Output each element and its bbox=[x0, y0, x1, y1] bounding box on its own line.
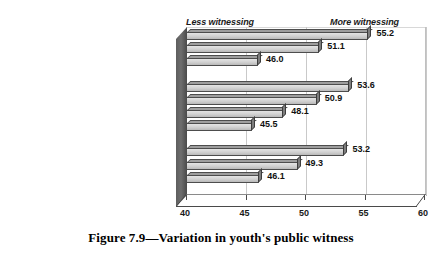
figure-container: Less witnessing More witnessing Youth gr… bbox=[0, 0, 442, 255]
figure-caption: Figure 7.9—Variation in youth's public w… bbox=[0, 230, 442, 246]
bar-front-face bbox=[186, 32, 368, 40]
bar-value-label: 53.6 bbox=[357, 80, 375, 90]
bar-value-label: 53.2 bbox=[352, 144, 370, 154]
tick-mark-40 bbox=[186, 195, 187, 200]
tick-mark-45 bbox=[246, 195, 247, 200]
bar-front-face bbox=[186, 45, 319, 53]
bar-front-face bbox=[186, 84, 349, 92]
bar bbox=[186, 94, 317, 105]
x-tick-label-50: 50 bbox=[292, 208, 316, 218]
tick-mark-55 bbox=[365, 195, 366, 200]
bar-front-face bbox=[186, 58, 258, 66]
bar bbox=[186, 172, 259, 183]
bar bbox=[186, 145, 344, 156]
right-wall-edge bbox=[425, 27, 426, 195]
bar-value-label: 46.0 bbox=[266, 54, 284, 64]
gridline-55 bbox=[366, 27, 367, 195]
bar-value-label: 46.1 bbox=[267, 171, 285, 181]
bar bbox=[186, 55, 258, 66]
bar bbox=[186, 107, 283, 118]
plot-area: 55.251.146.053.650.948.145.553.249.346.1… bbox=[176, 27, 426, 207]
floor-back-edge bbox=[186, 194, 426, 195]
bar-value-label: 50.9 bbox=[325, 93, 343, 103]
x-tick-label-40: 40 bbox=[173, 208, 197, 218]
bar-value-label: 55.2 bbox=[376, 28, 394, 38]
bar-value-label: 45.5 bbox=[260, 119, 278, 129]
bar-front-face bbox=[186, 175, 259, 183]
bar-value-label: 51.1 bbox=[327, 41, 345, 51]
bar-front-face bbox=[186, 148, 344, 156]
bar-value-label: 49.3 bbox=[306, 158, 324, 168]
bar bbox=[186, 29, 368, 40]
less-witnessing-annotation: Less witnessing bbox=[186, 17, 254, 27]
floor-right-diagonal bbox=[416, 194, 428, 207]
bar bbox=[186, 81, 349, 92]
bar bbox=[186, 120, 252, 131]
bar bbox=[186, 159, 298, 170]
x-tick-label-60: 60 bbox=[411, 208, 435, 218]
bar-front-face bbox=[186, 110, 283, 118]
floor-front-edge bbox=[176, 206, 417, 207]
bar bbox=[186, 42, 319, 53]
x-tick-label-55: 55 bbox=[352, 208, 376, 218]
bar-front-face bbox=[186, 162, 298, 170]
gridline-60 bbox=[426, 27, 427, 195]
bar-front-face bbox=[186, 97, 317, 105]
bar-value-label: 48.1 bbox=[291, 106, 309, 116]
tick-mark-50 bbox=[305, 195, 306, 200]
bar-front-face bbox=[186, 123, 252, 131]
x-tick-label-45: 45 bbox=[233, 208, 257, 218]
tick-mark-60 bbox=[424, 195, 425, 200]
category-axis-labels: Youth groups more than 101Youth groups b… bbox=[0, 0, 180, 215]
more-witnessing-annotation: More witnessing bbox=[330, 17, 399, 27]
